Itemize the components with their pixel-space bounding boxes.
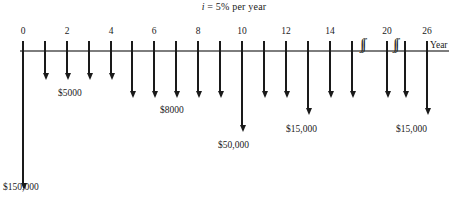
tick-label-year-26: 26	[415, 26, 439, 36]
cash-flow-arrow-year-14	[329, 50, 331, 92]
interest-rate-text: = 5% per year	[205, 1, 267, 12]
cash-flow-arrow-year-13	[307, 50, 309, 109]
cash-flow-amount-year-7: $8000	[160, 105, 184, 115]
cash-flow-arrow-year-2	[66, 50, 68, 74]
arrow-head-year-6	[152, 91, 158, 98]
tick-label-year-6: 6	[142, 26, 166, 36]
cash-flow-arrow-year-9	[219, 50, 221, 92]
tick-label-year-8: 8	[186, 26, 210, 36]
arrow-head-year-12	[284, 91, 290, 98]
cash-flow-amount-year-10: $50,000	[218, 140, 249, 150]
arrow-head-year-4	[109, 73, 115, 80]
tick-label-year-20: 20	[375, 26, 399, 36]
arrow-head-year-25	[403, 91, 409, 98]
cash-flow-arrow-year-20	[386, 50, 388, 92]
arrow-head-year-5	[130, 91, 136, 98]
axis-label-year: Year	[430, 40, 448, 50]
cash-flow-arrow-year-15	[351, 50, 353, 92]
arrow-head-year-1	[43, 73, 49, 80]
tick-label-year-2: 2	[55, 26, 79, 36]
cash-flow-diagram: i = 5% per year Year 024681012142026 ∫∫∫…	[0, 0, 468, 200]
arrow-head-year-10	[240, 125, 246, 132]
cash-flow-arrow-year-11	[263, 50, 265, 92]
arrow-head-year-26	[425, 108, 431, 115]
arrow-head-year-8	[196, 91, 202, 98]
cash-flow-amount-year-26: $15,000	[396, 124, 427, 134]
interest-rate-title: i = 5% per year	[0, 1, 468, 12]
cash-flow-arrow-year-12	[285, 50, 287, 92]
arrow-head-year-15	[350, 91, 356, 98]
arrow-head-year-2	[65, 73, 71, 80]
arrow-head-year-9	[218, 91, 224, 98]
cash-flow-amount-year-13: $15,000	[286, 124, 317, 134]
tick-label-year-14: 14	[318, 26, 342, 36]
axis-break-icon: ∫∫	[393, 37, 397, 52]
cash-flow-arrow-year-10	[241, 50, 243, 126]
tick-label-year-4: 4	[99, 26, 123, 36]
arrow-head-year-7	[174, 91, 180, 98]
arrow-head-year-11	[262, 91, 268, 98]
tick-label-year-10: 10	[230, 26, 254, 36]
arrow-head-year-14	[328, 91, 334, 98]
arrow-head-year-3	[87, 73, 93, 80]
cash-flow-arrow-year-0	[22, 50, 24, 184]
axis-break-icon: ∫∫	[360, 37, 364, 52]
tick-label-year-0: 0	[11, 26, 35, 36]
cash-flow-arrow-year-4	[110, 50, 112, 74]
cash-flow-arrow-year-8	[197, 50, 199, 92]
cash-flow-arrow-year-25	[404, 50, 406, 92]
cash-flow-arrow-year-1	[44, 50, 46, 74]
cash-flow-amount-year-0: $150,000	[3, 182, 39, 192]
arrow-head-year-20	[385, 91, 391, 98]
cash-flow-arrow-year-26	[426, 50, 428, 109]
cash-flow-amount-year-2: $5000	[58, 88, 82, 98]
tick-label-year-12: 12	[274, 26, 298, 36]
cash-flow-arrow-year-3	[88, 50, 90, 74]
cash-flow-arrow-year-6	[153, 50, 155, 92]
cash-flow-arrow-year-7	[175, 50, 177, 92]
cash-flow-arrow-year-5	[131, 50, 133, 92]
arrow-head-year-13	[306, 108, 312, 115]
timeline-axis	[20, 50, 449, 52]
